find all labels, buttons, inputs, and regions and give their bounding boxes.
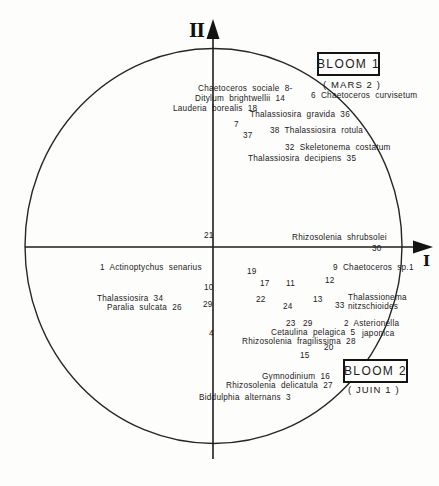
axis-ii-label: II (189, 20, 204, 41)
point-label: 37 (243, 131, 253, 140)
point-label: 9 Chaetoceros sp.1 (333, 263, 414, 272)
point-label: Biddulphia alternans 3 (199, 393, 291, 402)
point-label: 17 (260, 279, 270, 288)
point-label: 13 (313, 295, 323, 304)
point-label: 19 (247, 267, 257, 276)
point-label: 22 (256, 295, 266, 304)
point-label: 1 Actinoptychus senarius (100, 263, 202, 272)
point-label: 24 (283, 302, 293, 311)
point-label: 10 (204, 283, 214, 292)
point-label: 33 (335, 301, 345, 310)
point-label: 7 (234, 120, 239, 129)
bloom2-box: BLOOM 2 (343, 359, 408, 383)
point-label: 29 (203, 300, 213, 309)
bloom2-title: BLOOM 2 (344, 364, 407, 378)
ordination-figure: II I BLOOM 1 ( MARS 2 ) BLOOM 2 ( JUIN 1… (0, 0, 439, 486)
point-label: 12 (325, 276, 335, 285)
point-label: Lauderia borealis 18 (173, 104, 257, 113)
point-label: 23 (286, 319, 296, 328)
point-label: Chaetoceros sociale 8- (198, 84, 292, 93)
point-label: 21 (204, 231, 214, 240)
point-label: nitzschioides (348, 302, 398, 311)
point-label: Thalassionema (348, 293, 407, 302)
point-label: 38 Thalassiosira rotula (270, 126, 363, 135)
axis-i-label: I (423, 252, 430, 270)
point-label: Paralia sulcata 26 (107, 303, 182, 312)
point-label: 15 (300, 351, 310, 360)
point-label: Gymnodinium 16 (262, 372, 330, 381)
point-label: 20 (324, 343, 334, 352)
point-label: 30 (372, 244, 382, 253)
point-label: 32 Skeletonema costatum (285, 143, 391, 152)
vertical-axis-arrow (207, 19, 220, 39)
point-label: Rhizosolenia delicatula 27 (226, 381, 333, 390)
bloom1-box: BLOOM 1 (317, 52, 380, 76)
point-label: 29 (303, 319, 313, 328)
point-label: Rhizosolenia shrubsolei (292, 233, 387, 242)
point-label: Cetaulina pelagica 5 (271, 328, 355, 337)
point-label: Rhizosolenia fragilissima 28 (242, 337, 356, 346)
point-label: 11 (286, 279, 295, 288)
point-label: Thalassiosira decipiens 35 (248, 154, 356, 163)
point-label: Ditylum brightwellii 14 (195, 94, 285, 103)
bloom1-title: BLOOM 1 (317, 57, 380, 71)
point-label: Thalassiosira 34 (97, 294, 163, 303)
point-label: Thalassiosira gravida 36 (250, 110, 350, 119)
point-label: 2 Asterionella (344, 319, 399, 328)
point-label: 4 (209, 329, 214, 338)
point-label: japonica (362, 329, 395, 338)
bloom1-subtitle: ( MARS 2 ) (323, 79, 381, 90)
point-label: 6 Chaetoceros curvisetum (311, 91, 417, 100)
bloom2-subtitle: ( JUIN 1 ) (348, 384, 400, 395)
